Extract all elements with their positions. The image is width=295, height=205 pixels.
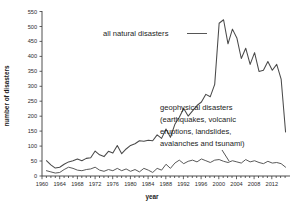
y-tick-label: 0 bbox=[34, 173, 37, 179]
x-tick-label: 1972 bbox=[89, 181, 101, 187]
annotation-all-natural-disasters-text: all natural disasters bbox=[103, 29, 169, 38]
x-tick-label: 1968 bbox=[71, 181, 83, 187]
x-tick-label: 1976 bbox=[106, 181, 118, 187]
annotation-geophysical-line-4: avalanches and tsunami) bbox=[160, 139, 245, 148]
x-tick-label: 1988 bbox=[160, 181, 172, 187]
x-tick-label: 1960 bbox=[36, 181, 48, 187]
y-axis-ticks: 0 50 100 150 200 250 300 350 400 450 500… bbox=[28, 9, 42, 180]
annotation-geophysical-line-2: (earthquakes, volcanic bbox=[160, 115, 236, 124]
x-tick-label: 1996 bbox=[195, 181, 207, 187]
y-tick-label: 200 bbox=[28, 113, 37, 119]
x-tick-label: 1980 bbox=[124, 181, 136, 187]
annotation-leader-line bbox=[222, 150, 229, 161]
y-tick-label: 450 bbox=[28, 38, 37, 44]
y-axis-label: number of disasters bbox=[3, 65, 10, 127]
y-tick-label: 350 bbox=[28, 68, 37, 74]
y-tick-label: 300 bbox=[28, 83, 37, 89]
natural-disasters-line-chart: 0 50 100 150 200 250 300 350 400 450 500… bbox=[0, 0, 295, 205]
annotation-all-natural-disasters: all natural disasters bbox=[103, 29, 207, 38]
y-tick-label: 400 bbox=[28, 53, 37, 59]
x-tick-label: 1992 bbox=[177, 181, 189, 187]
y-tick-label: 500 bbox=[28, 24, 37, 30]
x-axis-label: year bbox=[145, 193, 159, 201]
annotation-geophysical-line-3: eruptions, landslides, bbox=[160, 127, 231, 136]
y-tick-label: 100 bbox=[28, 143, 37, 149]
y-tick-label: 50 bbox=[31, 158, 37, 164]
x-tick-label: 2000 bbox=[213, 181, 225, 187]
y-tick-label: 150 bbox=[28, 128, 37, 134]
chart-figure: 0 50 100 150 200 250 300 350 400 450 500… bbox=[0, 0, 295, 205]
x-tick-label: 2008 bbox=[248, 181, 260, 187]
y-tick-label: 550 bbox=[28, 9, 37, 15]
x-tick-label: 1984 bbox=[142, 181, 154, 187]
x-tick-label: 2004 bbox=[230, 181, 242, 187]
annotation-geophysical-line-1: geophysical disasters bbox=[160, 103, 233, 112]
annotation-geophysical-disasters: geophysical disasters (earthquakes, volc… bbox=[160, 103, 245, 161]
x-tick-label: 1964 bbox=[53, 181, 65, 187]
y-tick-label: 250 bbox=[28, 98, 37, 104]
x-tick-label: 2012 bbox=[266, 181, 278, 187]
